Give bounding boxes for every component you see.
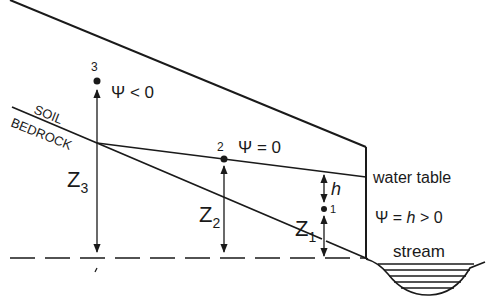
point-2-marker	[221, 156, 228, 163]
z2-label: Z2	[199, 202, 220, 231]
water-table-label: water table	[372, 169, 451, 186]
z1-label: Z1	[295, 216, 316, 245]
ground-surface-line	[10, 0, 366, 147]
psi-positive-label: Ψ = h > 0	[375, 209, 443, 226]
bedrock-label: BEDROCK	[9, 115, 75, 153]
point-3-label: 3	[91, 60, 98, 74]
point-1-marker	[321, 206, 327, 212]
psi-negative-label: Ψ < 0	[111, 83, 154, 102]
point-2-label: 2	[217, 140, 224, 154]
stream-label: stream	[393, 242, 445, 261]
z3-label: Z3	[67, 167, 88, 196]
point-1-label: 1	[330, 203, 336, 215]
point-3-marker	[94, 78, 101, 85]
psi-zero-label: Ψ = 0	[238, 138, 281, 157]
hillslope-diagram: SOIL BEDROCK 3 Ψ < 0 2 Ψ = 0 water table…	[0, 0, 497, 300]
stream-water-lines	[378, 264, 474, 288]
h-label: h	[331, 179, 341, 199]
bedrock-interface-line	[12, 107, 322, 239]
bedrock-interface-lower	[326, 241, 368, 259]
z1-arrow-tick	[95, 268, 97, 272]
